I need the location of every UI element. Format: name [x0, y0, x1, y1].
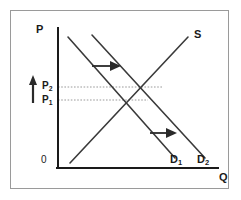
origin-label: 0 [41, 155, 47, 165]
demand-curve-1-label: D1 [170, 154, 182, 165]
demand-shift-arrow-lower-icon [150, 128, 177, 138]
demand-1-label-sub: 1 [178, 158, 182, 167]
price-label-p1: P1 [42, 95, 52, 105]
demand-curve-2-label: D2 [197, 154, 209, 165]
price-label-p1-text: P [42, 94, 49, 105]
figure-canvas: P Q 0 P2 P1 S D1 D2 [0, 0, 241, 200]
price-increase-arrow-icon [29, 75, 37, 103]
demand-1-label-text: D [170, 153, 178, 165]
demand-curve-1 [68, 37, 175, 158]
price-label-p2: P2 [42, 81, 52, 91]
supply-curve-label: S [194, 29, 201, 40]
price-label-p2-text: P [42, 80, 49, 91]
demand-2-label-text: D [197, 153, 205, 165]
demand-2-label-sub: 2 [205, 158, 209, 167]
price-label-p1-sub: 1 [49, 99, 53, 106]
x-axis-label: Q [219, 172, 228, 183]
demand-curve-2 [92, 35, 205, 158]
y-axis-label: P [36, 24, 43, 35]
price-label-p2-sub: 2 [49, 85, 53, 92]
